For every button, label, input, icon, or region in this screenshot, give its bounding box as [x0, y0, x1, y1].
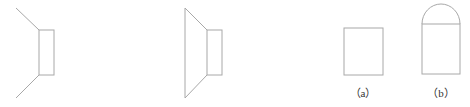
label-b: （b）: [427, 87, 455, 99]
rectangle-a: [344, 28, 383, 75]
rectangle-b: [422, 24, 460, 74]
figure-middle: [185, 8, 222, 98]
trapezoid-horn: [185, 8, 207, 98]
upper-diagonal-line: [16, 8, 39, 30]
label-a: （a）: [350, 87, 377, 99]
figure-b: （b）: [422, 4, 460, 99]
middle-rectangle: [207, 30, 222, 75]
left-rectangle: [39, 30, 54, 75]
lower-diagonal-line: [16, 75, 39, 98]
figure-left: [16, 8, 54, 98]
figure-a: （a）: [344, 28, 383, 99]
diagram-canvas: （a） （b）: [0, 0, 470, 107]
semicircle-top: [422, 4, 460, 24]
